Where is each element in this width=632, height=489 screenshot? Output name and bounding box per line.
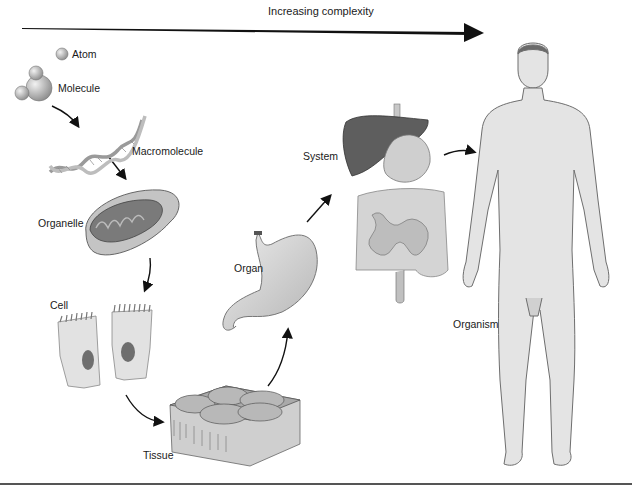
- label-system: System: [303, 150, 338, 162]
- atom-icon: [56, 48, 68, 60]
- label-atom: Atom: [72, 48, 97, 60]
- label-tissue: Tissue: [143, 449, 174, 461]
- label-cell: Cell: [50, 299, 68, 311]
- label-macromolecule: Macromolecule: [132, 145, 203, 157]
- bottom-divider: [0, 483, 632, 485]
- label-organism: Organism: [453, 318, 499, 330]
- diagram-canvas: [0, 0, 632, 489]
- label-organ: Organ: [234, 262, 263, 274]
- tissue-icon: [170, 386, 300, 466]
- label-molecule: Molecule: [58, 82, 100, 94]
- complexity-arrow: [22, 23, 484, 42]
- human-body-icon: [463, 43, 609, 465]
- digestive-system-icon: [343, 104, 448, 303]
- complexity-arrow-label: Increasing complexity: [268, 5, 374, 17]
- label-organelle: Organelle: [38, 217, 84, 229]
- stomach-icon: [223, 231, 317, 330]
- dna-helix-icon: [50, 116, 145, 173]
- mitochondrion-icon: [86, 190, 179, 255]
- molecule-icon: [15, 66, 52, 101]
- cell-icon: [58, 304, 152, 388]
